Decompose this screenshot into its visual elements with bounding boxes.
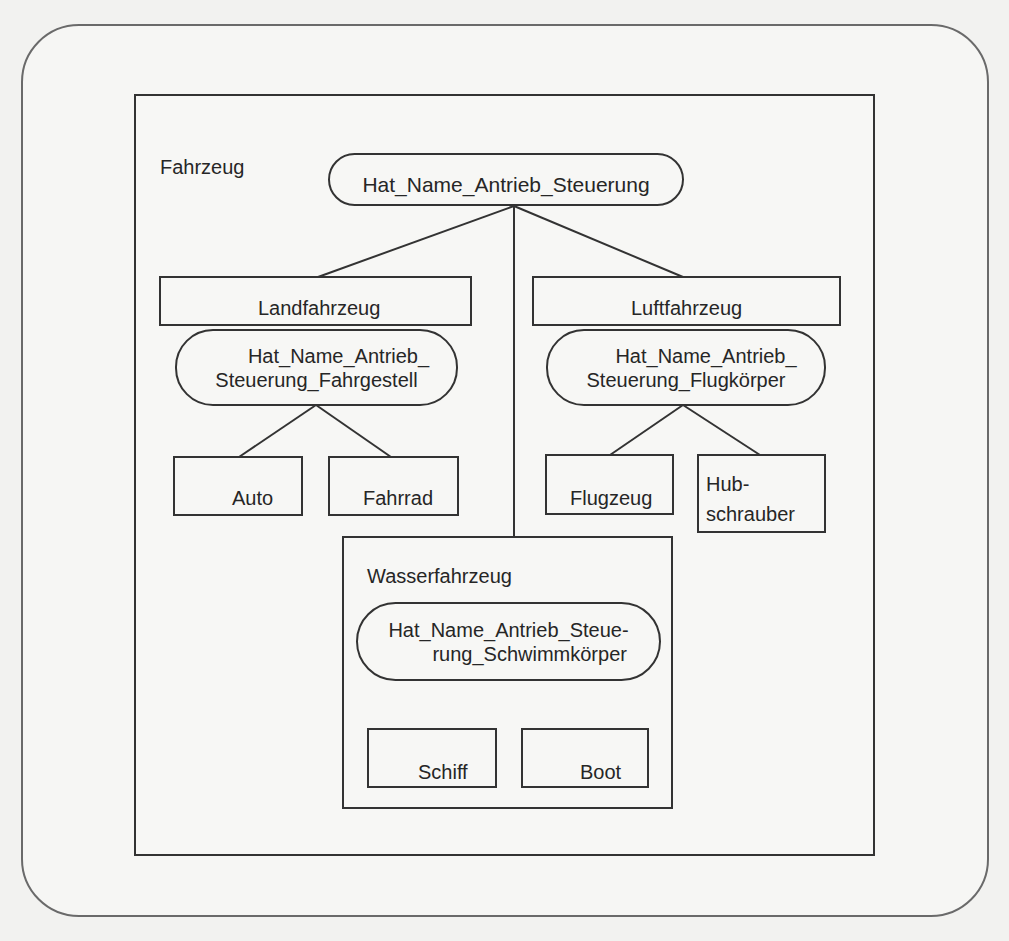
wasserfahrzeug-attributes-pill: Hat_Name_Antrieb_Steue- rung_Schwimmkörp… — [356, 602, 661, 681]
fahrrad-label: Fahrrad — [363, 487, 433, 510]
landfahrzeug-attributes-pill: Hat_Name_Antrieb_ Steuerung_Fahrgestell — [175, 329, 458, 406]
luftfahrzeug-attributes-line1: Hat_Name_Antrieb_ — [575, 344, 796, 368]
landfahrzeug-label: Landfahrzeug — [258, 297, 380, 320]
landfahrzeug-attributes-line1: Hat_Name_Antrieb_ — [204, 344, 429, 368]
luftfahrzeug-attributes-pill: Hat_Name_Antrieb_ Steuerung_Flugkörper — [546, 329, 826, 406]
luftfahrzeug-label: Luftfahrzeug — [631, 297, 742, 320]
boot-label: Boot — [580, 761, 621, 784]
hubschrauber-label-line2: schrauber — [706, 503, 795, 526]
root-attributes-pill: Hat_Name_Antrieb_Steuerung — [328, 153, 684, 206]
root-attributes-text: Hat_Name_Antrieb_Steuerung — [362, 172, 649, 197]
luftfahrzeug-attributes-line2: Steuerung_Flugkörper — [575, 368, 796, 392]
hubschrauber-label-line1: Hub- — [706, 473, 749, 496]
schiff-label: Schiff — [418, 761, 468, 784]
wasserfahrzeug-attributes-line1: Hat_Name_Antrieb_Steue- — [388, 618, 628, 642]
wasserfahrzeug-attributes-line2: rung_Schwimmkörper — [388, 642, 628, 666]
flugzeug-label: Flugzeug — [570, 487, 652, 510]
root-class-label: Fahrzeug — [160, 156, 245, 179]
auto-label: Auto — [232, 487, 273, 510]
landfahrzeug-attributes-line2: Steuerung_Fahrgestell — [204, 368, 429, 392]
wasserfahrzeug-label: Wasserfahrzeug — [367, 565, 512, 588]
